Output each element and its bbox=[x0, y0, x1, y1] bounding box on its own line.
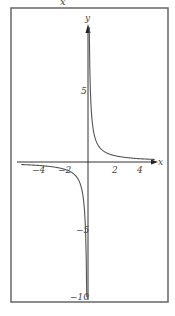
x-axis-label: x bbox=[158, 157, 163, 167]
top-caption: x bbox=[60, 0, 66, 7]
x-tick-label: −4 bbox=[32, 165, 46, 175]
x-tick-label: −2 bbox=[58, 165, 72, 175]
function-plot: x x y −4 −2 2 4 5 −5 −10 bbox=[0, 0, 175, 316]
x-tick-label: 4 bbox=[136, 165, 143, 175]
y-axis-label: y bbox=[84, 13, 91, 23]
curve-positive-branch bbox=[89, 27, 155, 159]
x-axis-arrow-icon bbox=[151, 160, 158, 165]
y-tick-label: 5 bbox=[81, 86, 87, 96]
y-tick-label: −5 bbox=[76, 225, 90, 235]
x-tick-label: 2 bbox=[111, 165, 118, 175]
